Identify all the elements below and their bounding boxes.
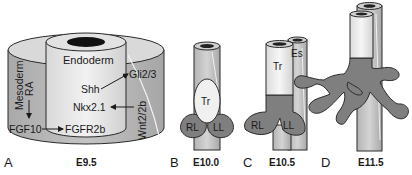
label-tr-c: Tr xyxy=(273,61,283,72)
panel-letter-b: B xyxy=(170,155,179,170)
stage-label-d: E11.5 xyxy=(358,157,384,168)
endoderm-lumen xyxy=(67,37,105,47)
label-endoderm: Endoderm xyxy=(63,54,114,66)
label-shh: Shh xyxy=(81,83,100,95)
label-wnt: Wnt2/2b xyxy=(136,101,148,140)
label-ll-b: LL xyxy=(213,122,225,133)
label-nkx: Nkx2.1 xyxy=(73,101,106,113)
panel-b: Tr RL LL B E10.0 xyxy=(170,42,233,170)
panel-letter-c: C xyxy=(243,155,252,170)
label-ll-c: LL xyxy=(283,120,295,131)
label-ra: RA xyxy=(23,81,35,96)
panel-c: Tr Es RL LL C E10.5 xyxy=(243,37,307,170)
stage-label-b: E10.0 xyxy=(193,157,220,168)
panel-d: D E11.5 xyxy=(294,3,408,171)
label-fgf10: FGF10 xyxy=(9,123,42,135)
panel-a: Endoderm Gli2/3 Shh Nkx2.1 Wnt2/2b Mesod… xyxy=(4,33,164,170)
panel-letter-d: D xyxy=(321,155,330,170)
label-fgfr2b: FGFR2b xyxy=(65,123,105,135)
label-es-c: Es xyxy=(291,48,303,59)
label-rl-b: RL xyxy=(186,122,199,133)
stage-label-a: E9.5 xyxy=(76,157,97,168)
trachea-tube-d xyxy=(350,14,373,58)
lung-development-diagram: Endoderm Gli2/3 Shh Nkx2.1 Wnt2/2b Mesod… xyxy=(0,0,412,175)
stage-label-c: E10.5 xyxy=(269,157,296,168)
label-tr-b: Tr xyxy=(201,96,211,107)
panel-letter-a: A xyxy=(4,155,13,170)
label-rl-c: RL xyxy=(251,120,264,131)
label-gli: Gli2/3 xyxy=(129,68,157,80)
